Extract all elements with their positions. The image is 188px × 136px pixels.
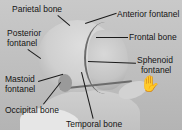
infant-skull-figure: ✋ Parietal bone Anterior fontanel Poster…	[0, 0, 182, 130]
label-frontal-bone: Frontal bone	[129, 33, 177, 43]
label-posterior-fontanel-2: fontanel	[7, 39, 37, 49]
label-anterior-fontanel: Anterior fontanel	[117, 10, 179, 20]
label-temporal-bone: Temporal bone	[66, 120, 122, 130]
label-parietal-bone: Parietal bone	[12, 5, 62, 15]
label-sphenoid-fontanel-2: fontanel	[141, 66, 171, 76]
label-occipital-bone: Occipital bone	[5, 106, 59, 116]
leader-frontal-bone	[96, 37, 128, 38]
hand-icon: ✋	[140, 76, 154, 92]
label-mastoid-fontanel-2: fontanel	[5, 85, 35, 95]
